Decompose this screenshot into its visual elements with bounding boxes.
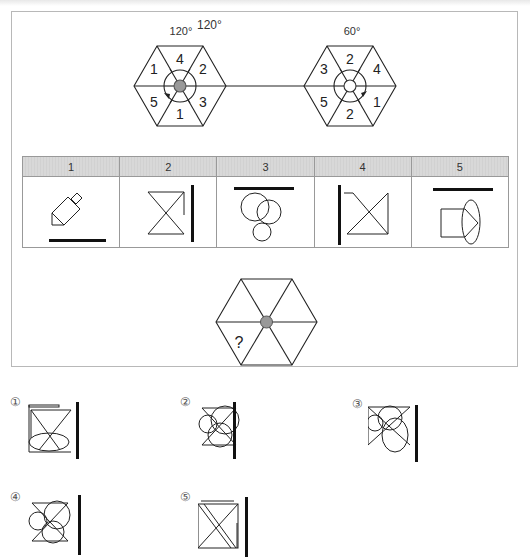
option-1-label[interactable]: ① (10, 395, 21, 409)
option-5-label[interactable]: ⑤ (180, 490, 191, 504)
pencil-shape-icon (23, 177, 120, 247)
option-1-figure[interactable] (25, 400, 85, 460)
house-ellipse-icon (412, 177, 509, 247)
rule-cell-3 (217, 177, 314, 248)
hex2-seg-lower-right: 1 (373, 94, 381, 110)
option-5-figure[interactable] (198, 497, 258, 557)
rule-cell-2 (120, 177, 217, 248)
bowtie-shape-icon (315, 177, 412, 247)
rule-cell-5 (411, 177, 508, 248)
hex2-seg-upper-left: 3 (320, 61, 328, 77)
hexagon-pair: 4 2 3 1 5 1 2 4 1 2 5 3 120° 60° (0, 0, 530, 160)
option-2-figure[interactable] (195, 400, 255, 460)
hex1-seg-upper-right: 2 (199, 61, 207, 77)
rule-cell-4 (314, 177, 411, 248)
hex2-seg-upper-right: 4 (373, 61, 381, 77)
option-2-label[interactable]: ② (180, 395, 191, 409)
rotation-label-hex1: 120° (170, 25, 193, 37)
rotation-label-hex2: 60° (344, 25, 361, 37)
rule-header-1: 1 (23, 157, 120, 177)
rule-table: 1 2 3 4 5 (22, 156, 509, 248)
hex2-seg-bottom: 2 (346, 106, 354, 122)
option-3-figure[interactable] (368, 405, 428, 465)
option-4-figure[interactable] (25, 495, 85, 555)
hex2-seg-top: 2 (346, 51, 354, 67)
hex1-seg-lower-left: 5 (150, 94, 158, 110)
rule-header-4: 4 (314, 157, 411, 177)
option-4-label[interactable]: ④ (10, 490, 21, 504)
hex1-seg-bottom: 1 (176, 106, 184, 122)
hex1-seg-top: 4 (176, 51, 184, 67)
hex2-seg-lower-left: 5 (320, 94, 328, 110)
rule-header-3: 3 (217, 157, 314, 177)
hex1-seg-lower-right: 3 (199, 94, 207, 110)
hex1-seg-upper-left: 1 (150, 61, 158, 77)
question-hexagon: ? (200, 270, 340, 370)
rule-cell-1 (23, 177, 120, 248)
rule-header-2: 2 (120, 157, 217, 177)
rule-header-5: 5 (411, 157, 508, 177)
option-3-label[interactable]: ③ (352, 397, 363, 411)
question-mark: ? (235, 334, 244, 351)
hourglass-shape-icon (120, 177, 217, 247)
three-circles-icon (217, 177, 314, 247)
